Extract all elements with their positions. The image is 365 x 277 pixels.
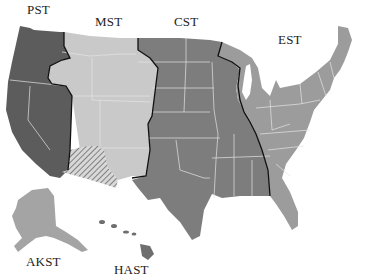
- label-akst: AKST: [26, 254, 61, 270]
- alaska: [12, 188, 88, 252]
- label-hast: HAST: [114, 262, 149, 277]
- label-est: EST: [278, 32, 302, 48]
- hawaii: [99, 220, 154, 260]
- pst-zone: [6, 26, 72, 178]
- label-pst: PST: [27, 2, 50, 18]
- label-mst: MST: [95, 14, 122, 30]
- time-zone-map: [0, 0, 365, 277]
- label-cst: CST: [174, 14, 198, 30]
